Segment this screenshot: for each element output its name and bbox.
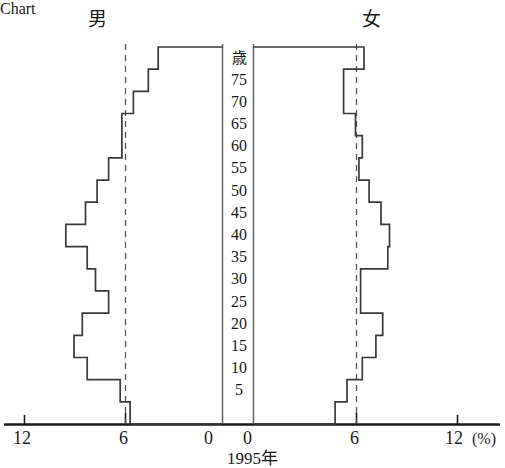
year-number: 1995 xyxy=(227,449,261,468)
age-tick-10: 10 xyxy=(224,360,255,376)
population-pyramid-chart: 男 女 歳75706560555045403530252015105 12 6 … xyxy=(0,0,505,468)
age-tick-50: 50 xyxy=(224,183,255,199)
year-caption: 1995年 xyxy=(227,444,278,468)
age-tick-15: 15 xyxy=(224,338,255,354)
age-tick-30: 30 xyxy=(224,271,255,287)
age-tick-70: 70 xyxy=(224,94,255,110)
x-tick-right-12: 12 xyxy=(445,428,463,449)
x-tick-right-6: 6 xyxy=(350,428,359,449)
age-tick-20: 20 xyxy=(224,316,255,332)
x-tick-left-0: 0 xyxy=(204,428,213,449)
age-tick-5: 5 xyxy=(224,382,255,398)
age-tick-65: 65 xyxy=(224,116,255,132)
age-tick-40: 40 xyxy=(224,227,255,243)
age-tick-75: 75 xyxy=(224,72,255,88)
age-tick-60: 60 xyxy=(224,138,255,154)
x-axis-ticks-left xyxy=(25,413,126,424)
age-tick-35: 35 xyxy=(224,249,255,265)
male-distribution-outline xyxy=(66,47,223,424)
age-axis-unit: 歳 xyxy=(224,50,255,66)
x-tick-left-12: 12 xyxy=(13,428,31,449)
age-tick-25: 25 xyxy=(224,294,255,310)
age-tick-45: 45 xyxy=(224,205,255,221)
age-tick-55: 55 xyxy=(224,160,255,176)
x-axis-ticks-right xyxy=(357,413,458,424)
percent-unit-label: (%) xyxy=(472,430,496,448)
female-distribution-outline xyxy=(254,47,390,424)
x-tick-left-6: 6 xyxy=(119,428,128,449)
year-suffix: 年 xyxy=(261,448,278,468)
